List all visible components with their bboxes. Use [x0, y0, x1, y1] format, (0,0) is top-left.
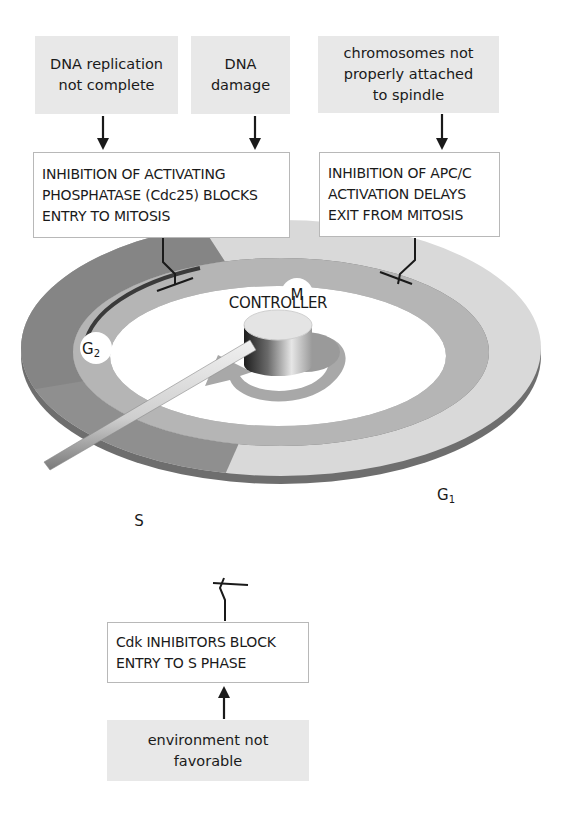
phase-label-g2: G2 [80, 332, 112, 364]
effect-text-line: ACTIVATION DELAYS [328, 184, 499, 205]
effect-metaphase-delay: INHIBITION OF APC/C ACTIVATION DELAYS EX… [319, 152, 500, 237]
condition-text-line: properly attached [344, 64, 473, 85]
arrowhead-environment [218, 686, 230, 698]
phase-label-g1: G1 [436, 478, 468, 510]
effect-text-line: ENTRY TO S PHASE [116, 653, 308, 674]
effect-g1s-block: Cdk INHIBITORS BLOCK ENTRY TO S PHASE [107, 622, 309, 683]
condition-dna-damage: DNA damage [191, 36, 290, 114]
inhibition-g1s-bar [213, 583, 248, 585]
cell-cycle-control-diagram: M G1 S G2 CONTROLLER [0, 0, 563, 818]
phase-label-s: S [123, 504, 155, 536]
condition-text-line: to spindle [373, 85, 444, 106]
condition-environment-unfavorable: environment not favorable [107, 720, 309, 781]
effect-text-line: INHIBITION OF APC/C [328, 163, 499, 184]
condition-chromosomes-unattached: chromosomes not properly attached to spi… [318, 36, 499, 113]
condition-text-line: chromosomes not [343, 43, 473, 64]
condition-dna-replication-incomplete: DNA replication not complete [35, 36, 178, 114]
arrowhead-chromosomes [436, 138, 448, 150]
arrowhead-dna-damage [249, 138, 261, 150]
condition-text-line: not complete [58, 75, 154, 96]
condition-text-line: environment not [148, 730, 269, 751]
hub-cylinder-top [244, 310, 312, 340]
condition-text-line: DNA replication [50, 54, 163, 75]
effect-g2m-block: INHIBITION OF ACTIVATING PHOSPHATASE (Cd… [33, 152, 290, 238]
arrowhead-dna-replication [97, 138, 109, 150]
effect-text-line: INHIBITION OF ACTIVATING [42, 164, 289, 185]
effect-text-line: ENTRY TO MITOSIS [42, 206, 289, 227]
hub-cylinder-bottom [244, 354, 312, 376]
controller-disc [0, 200, 541, 520]
effect-text-line: PHOSPHATASE (Cdc25) BLOCKS [42, 185, 289, 206]
controller-label: CONTROLLER [229, 294, 328, 312]
condition-text-line: damage [211, 75, 270, 96]
effect-text-line: EXIT FROM MITOSIS [328, 205, 499, 226]
condition-text-line: favorable [174, 751, 242, 772]
effect-text-line: Cdk INHIBITORS BLOCK [116, 632, 308, 653]
condition-text-line: DNA [225, 54, 257, 75]
phase-label-s-text: S [134, 512, 144, 530]
